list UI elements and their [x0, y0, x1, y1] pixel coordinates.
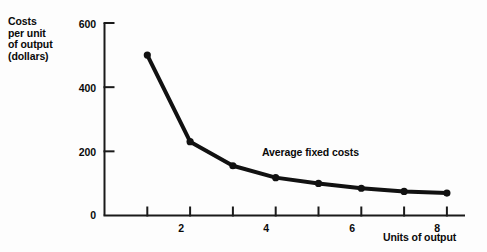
data-markers-average-fixed-costs	[144, 51, 451, 196]
chart-figure: Costs per unit of output (dollars) 600 4…	[0, 0, 487, 252]
data-point-8	[443, 189, 450, 196]
data-point-4	[272, 174, 279, 181]
data-point-6	[358, 185, 365, 192]
axes	[104, 23, 466, 216]
data-point-2	[187, 138, 194, 145]
data-point-5	[315, 180, 322, 187]
data-point-1	[144, 51, 151, 58]
plot-area	[0, 0, 487, 252]
data-line-average-fixed-costs	[147, 55, 447, 193]
data-point-3	[229, 162, 236, 169]
data-point-7	[401, 188, 408, 195]
